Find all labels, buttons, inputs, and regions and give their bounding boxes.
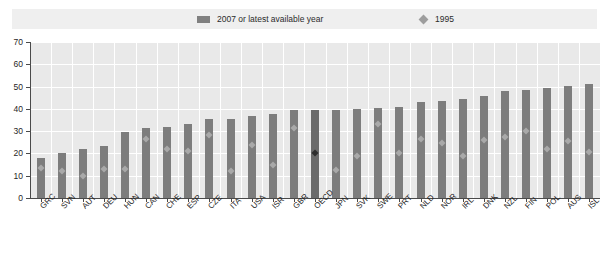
y-axis-label: 60 bbox=[0, 60, 23, 69]
chart-figure: 2007 or latest available year 1995 01020… bbox=[0, 0, 609, 259]
y-axis-label: 50 bbox=[0, 83, 23, 92]
y-axis-tick bbox=[26, 198, 30, 199]
bar-group[interactable] bbox=[304, 42, 325, 198]
bar[interactable] bbox=[58, 153, 66, 198]
bar-group[interactable] bbox=[410, 42, 431, 198]
bar[interactable] bbox=[269, 114, 277, 198]
y-axis-label: 70 bbox=[0, 38, 23, 47]
y-axis-tick bbox=[26, 42, 30, 43]
y-axis-tick bbox=[26, 131, 30, 132]
bar[interactable] bbox=[290, 110, 298, 198]
bar-group[interactable] bbox=[452, 42, 473, 198]
bar-group[interactable] bbox=[199, 42, 220, 198]
bar-group[interactable] bbox=[368, 42, 389, 198]
bar-group[interactable] bbox=[431, 42, 452, 198]
bar-group[interactable] bbox=[93, 42, 114, 198]
bar[interactable] bbox=[227, 119, 235, 198]
bars-layer bbox=[30, 42, 600, 198]
bar-group[interactable] bbox=[51, 42, 72, 198]
diamond-marker-icon bbox=[419, 14, 429, 24]
bar-group[interactable] bbox=[30, 42, 51, 198]
bar[interactable] bbox=[163, 127, 171, 198]
bar-group[interactable] bbox=[136, 42, 157, 198]
bar[interactable] bbox=[184, 124, 192, 198]
plot-area bbox=[30, 42, 600, 198]
y-axis-tick bbox=[26, 176, 30, 177]
bar[interactable] bbox=[332, 110, 340, 198]
legend-item-diamonds-label: 1995 bbox=[435, 15, 454, 24]
bar-group[interactable] bbox=[262, 42, 283, 198]
y-axis-label: 10 bbox=[0, 172, 23, 181]
bar-group[interactable] bbox=[283, 42, 304, 198]
y-axis-tick bbox=[26, 87, 30, 88]
legend-item-bars-label: 2007 or latest available year bbox=[217, 15, 323, 24]
bar-group[interactable] bbox=[72, 42, 93, 198]
bar[interactable] bbox=[438, 101, 446, 198]
bar-group[interactable] bbox=[114, 42, 135, 198]
bar-group[interactable] bbox=[157, 42, 178, 198]
bar-group[interactable] bbox=[579, 42, 600, 198]
legend-item-diamonds: 1995 bbox=[420, 9, 454, 29]
y-axis-line bbox=[30, 42, 31, 199]
y-axis-label: 30 bbox=[0, 127, 23, 136]
bar-group[interactable] bbox=[178, 42, 199, 198]
y-axis-tick bbox=[26, 153, 30, 154]
bar[interactable] bbox=[480, 96, 488, 198]
y-axis-tick bbox=[26, 64, 30, 65]
bar-group[interactable] bbox=[558, 42, 579, 198]
bar[interactable] bbox=[543, 88, 551, 198]
bar[interactable] bbox=[522, 90, 530, 198]
bar[interactable] bbox=[459, 99, 467, 198]
bar[interactable] bbox=[417, 102, 425, 198]
bar-group[interactable] bbox=[241, 42, 262, 198]
bar-swatch-icon bbox=[197, 16, 210, 23]
bar[interactable] bbox=[248, 116, 256, 198]
bar-group[interactable] bbox=[537, 42, 558, 198]
bar-group[interactable] bbox=[220, 42, 241, 198]
legend-item-bars: 2007 or latest available year bbox=[197, 9, 323, 29]
y-axis-label: 20 bbox=[0, 149, 23, 158]
bar-group[interactable] bbox=[516, 42, 537, 198]
bar-group[interactable] bbox=[326, 42, 347, 198]
y-axis-label: 0 bbox=[0, 194, 23, 203]
bar[interactable] bbox=[501, 91, 509, 198]
y-axis-label: 40 bbox=[0, 105, 23, 114]
bar-group[interactable] bbox=[347, 42, 368, 198]
bar-group[interactable] bbox=[494, 42, 515, 198]
y-axis-tick bbox=[26, 109, 30, 110]
bar[interactable] bbox=[585, 84, 593, 198]
bar-group[interactable] bbox=[473, 42, 494, 198]
bar-group[interactable] bbox=[389, 42, 410, 198]
bar[interactable] bbox=[205, 119, 213, 198]
chart-legend: 2007 or latest available year 1995 bbox=[12, 9, 597, 29]
